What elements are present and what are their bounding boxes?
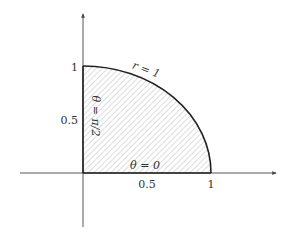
label-theta-0: θ = 0 [130, 159, 160, 172]
label-theta-pi-2: θ = π/2 [89, 96, 102, 137]
y-tick-0.5: 0.5 [61, 114, 79, 127]
x-tick-0.5: 0.5 [138, 178, 156, 191]
x-tick-1: 1 [208, 178, 215, 191]
polar-region-diagram: 0.5 1 0.5 1 r = 1 θ = 0 θ = π/2 [0, 0, 289, 235]
y-tick-1: 1 [71, 61, 78, 74]
